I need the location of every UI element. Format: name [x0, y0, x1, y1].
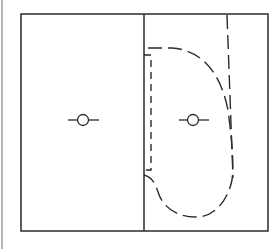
right-vertical-guide [227, 15, 233, 178]
right-fixture-symbol [179, 115, 209, 126]
swing-area-outline [144, 48, 233, 217]
diagram-canvas [0, 0, 278, 249]
left-fixture-symbol [68, 115, 99, 126]
circle-icon [188, 115, 199, 126]
inner-vertical-guide [144, 55, 151, 170]
fixture-symbols [68, 115, 209, 126]
circle-icon [78, 115, 89, 126]
